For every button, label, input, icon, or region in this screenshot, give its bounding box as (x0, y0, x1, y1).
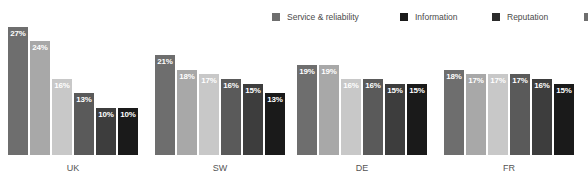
bar-value-label: 15% (554, 86, 574, 95)
bar[interactable]: 10% (118, 108, 138, 155)
bar[interactable]: 19% (297, 65, 317, 155)
bar-group-bars: 27%24%16%13%10%10% (8, 27, 138, 155)
bar-value-label: 16% (52, 81, 72, 90)
bar-value-label: 21% (155, 57, 175, 66)
bar[interactable]: 17% (466, 74, 486, 155)
bar-value-label: 18% (177, 72, 197, 81)
bar[interactable]: 18% (177, 70, 197, 155)
bar[interactable]: 16% (532, 79, 552, 155)
bar-value-label: 19% (319, 67, 339, 76)
bar[interactable]: 13% (74, 93, 94, 155)
bar-group-bars: 21%18%17%16%15%13% (155, 27, 285, 155)
bar[interactable]: 10% (96, 108, 116, 155)
bar-value-label: 16% (532, 81, 552, 90)
bar-group-sw: 21%18%17%16%15%13%SW (155, 0, 285, 182)
bar[interactable]: 17% (510, 74, 530, 155)
grouped-bar-chart: Service & reliabilityInformationReputati… (0, 0, 588, 182)
bar-value-label: 13% (265, 95, 285, 104)
bar[interactable]: 17% (488, 74, 508, 155)
bar-group-uk: 27%24%16%13%10%10%UK (8, 0, 138, 182)
plot-area: 27%24%16%13%10%10%UK21%18%17%16%15%13%SW… (0, 0, 588, 182)
bar[interactable]: 18% (444, 70, 464, 155)
bar-group-bars: 19%19%16%16%15%15% (297, 27, 427, 155)
bar[interactable]: 21% (155, 55, 175, 155)
bar-value-label: 13% (74, 95, 94, 104)
bar-value-label: 15% (407, 86, 427, 95)
bar-value-label: 15% (385, 86, 405, 95)
x-axis-group-label: UK (8, 163, 138, 174)
bar[interactable]: 16% (52, 79, 72, 155)
bar-group-bars: 18%17%17%17%16%15% (444, 27, 574, 155)
bar-value-label: 16% (221, 81, 241, 90)
bar[interactable]: 15% (385, 84, 405, 155)
bar-value-label: 19% (297, 67, 317, 76)
bar-value-label: 17% (510, 76, 530, 85)
bar-group-de: 19%19%16%16%15%15%DE (297, 0, 427, 182)
bar[interactable]: 15% (243, 84, 263, 155)
bar[interactable]: 15% (407, 84, 427, 155)
bar-value-label: 10% (118, 110, 138, 119)
bar[interactable]: 13% (265, 93, 285, 155)
bar-value-label: 15% (243, 86, 263, 95)
bar[interactable]: 17% (199, 74, 219, 155)
bar-value-label: 16% (363, 81, 383, 90)
bar-value-label: 24% (30, 43, 50, 52)
bar-value-label: 10% (96, 110, 116, 119)
bar-value-label: 27% (8, 29, 28, 38)
bar[interactable]: 27% (8, 27, 28, 155)
bar[interactable]: 15% (554, 84, 574, 155)
bar-group-fr: 18%17%17%17%16%15%FR (444, 0, 574, 182)
bar-value-label: 17% (199, 76, 219, 85)
bar[interactable]: 19% (319, 65, 339, 155)
bar-value-label: 17% (488, 76, 508, 85)
bar[interactable]: 16% (341, 79, 361, 155)
bar-value-label: 18% (444, 72, 464, 81)
x-axis-group-label: DE (297, 163, 427, 174)
x-axis-group-label: SW (155, 163, 285, 174)
bar[interactable]: 16% (221, 79, 241, 155)
bar[interactable]: 16% (363, 79, 383, 155)
bar-value-label: 17% (466, 76, 486, 85)
bar-value-label: 16% (341, 81, 361, 90)
bar[interactable]: 24% (30, 41, 50, 155)
x-axis-group-label: FR (444, 163, 574, 174)
